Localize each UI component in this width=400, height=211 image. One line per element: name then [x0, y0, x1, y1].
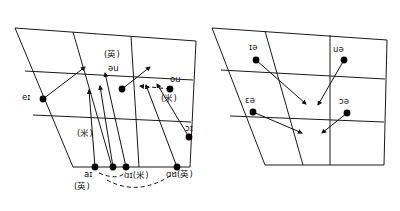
label-mi-middle: (米) [77, 129, 93, 138]
label-ia: ɪə [249, 43, 258, 52]
left-panel-glide-arrows [43, 67, 189, 167]
right-panel-glide-arrows [253, 60, 347, 133]
label-mi-right: (米) [161, 94, 177, 103]
label-ou: ou [170, 75, 181, 84]
label-oi: ɔɪ [185, 124, 193, 133]
label-ua: uə [333, 45, 344, 54]
vowel-diagram-figure: eɪ (英) əu ou (米) (米) ɔɪ aɪ (英) ɑɪ(米) ɑu(… [0, 0, 400, 211]
label-ea: εə [245, 96, 255, 105]
right-quadrilateral-outline [212, 28, 387, 165]
label-oa: ɔə [339, 97, 349, 106]
label-ei: eɪ [22, 93, 31, 102]
label-ai-ying: aɪ [84, 170, 93, 179]
label-au-ying: ɑu(英) [166, 170, 193, 179]
label-schwa-u: əu [108, 64, 119, 73]
label-ying-bottom: (英) [74, 182, 90, 191]
right-panel-dots [250, 57, 351, 117]
label-ying-top: (英) [104, 50, 120, 59]
label-ai-mi: ɑɪ(米) [124, 171, 149, 180]
